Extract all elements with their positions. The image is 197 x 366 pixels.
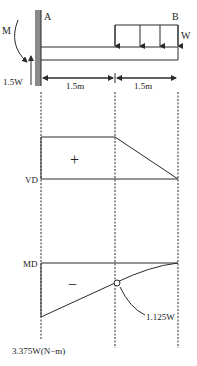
moment-leader-line — [120, 287, 145, 315]
span-left-label: 1.5m — [66, 81, 84, 91]
load-label: W — [181, 30, 191, 41]
shear-diagram-shape — [41, 137, 178, 179]
load-bracket — [115, 25, 178, 45]
moment-marker-point — [114, 280, 120, 286]
label-b: B — [172, 11, 179, 22]
moment-linear-segment — [41, 283, 115, 317]
span-right-label: 1.5m — [134, 81, 152, 91]
shear-label: VD — [25, 175, 38, 185]
moment-diagram-label: MD — [23, 259, 38, 269]
moment-sign: − — [68, 276, 77, 293]
reaction-label: 1.5W — [3, 77, 23, 87]
moment-mid-value: 1.125W — [146, 312, 175, 322]
beam-diagram: A B M 1.5W W 1.5m 1.5m VD + MD − 1.125W … — [0, 0, 197, 366]
moment-end-value: 3.375W(N−m) — [12, 346, 65, 356]
moment-parabolic-segment — [115, 263, 178, 283]
shear-sign: + — [70, 151, 79, 168]
label-a: A — [44, 11, 52, 22]
fixed-wall — [35, 10, 41, 86]
moment-label: M — [2, 25, 11, 36]
moment-arc — [15, 20, 27, 62]
